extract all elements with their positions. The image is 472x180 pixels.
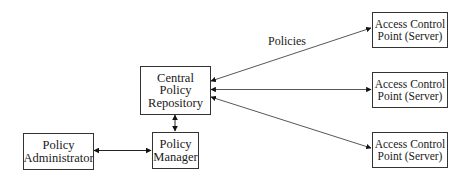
acp1-line2: Point (Server) — [375, 30, 446, 42]
acp1-line1: Access Control — [375, 18, 446, 30]
repository-line2: Policy — [148, 84, 203, 97]
manager-line1: Policy — [153, 138, 197, 151]
policy-administrator-node: Policy Administrator — [23, 133, 94, 170]
manager-line2: Manager — [153, 151, 197, 164]
repository-line3: Repository — [148, 97, 203, 110]
administrator-line1: Policy — [23, 139, 93, 152]
edge-repository-acp3 — [211, 97, 371, 148]
policy-manager-node: Policy Manager — [152, 132, 199, 169]
policies-label: Policies — [268, 34, 306, 49]
central-policy-repository-node: Central Policy Repository — [140, 66, 211, 115]
access-control-point-node-3: Access Control Point (Server) — [372, 132, 448, 168]
acp2-line1: Access Control — [375, 78, 446, 90]
acp3-line1: Access Control — [375, 138, 446, 150]
access-control-point-node-2: Access Control Point (Server) — [372, 72, 448, 108]
acp3-line2: Point (Server) — [375, 150, 446, 162]
administrator-line2: Administrator — [23, 152, 93, 165]
access-control-point-node-1: Access Control Point (Server) — [372, 12, 448, 48]
acp2-line2: Point (Server) — [375, 90, 446, 102]
